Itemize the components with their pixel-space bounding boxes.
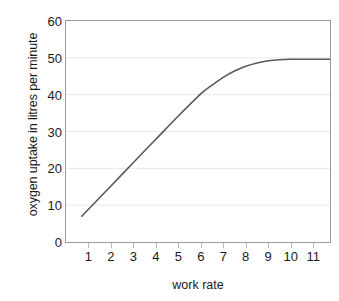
x-tick-mark: [178, 243, 179, 248]
y-tick-label: 20: [2, 161, 62, 176]
x-axis-title: work rate: [65, 278, 331, 292]
x-tick-mark: [156, 243, 157, 248]
x-tick-mark: [111, 243, 112, 248]
chart-figure: oxygen uptake in litres per minute 01020…: [0, 0, 339, 301]
x-axis-tick-labels: 1234567891011: [65, 249, 331, 269]
x-tick-mark: [223, 243, 224, 248]
data-line: [82, 59, 330, 216]
y-tick-label: 50: [2, 50, 62, 65]
y-tick-label: 30: [2, 124, 62, 139]
gridlines: [66, 58, 330, 205]
y-tick-label: 10: [2, 198, 62, 213]
x-tick-label: 11: [298, 249, 328, 264]
plot-area: [65, 20, 331, 243]
y-tick-label: 60: [2, 14, 62, 29]
x-tick-mark: [268, 243, 269, 248]
x-tick-mark: [246, 243, 247, 248]
y-axis-tick-labels: 0102030405060: [0, 20, 62, 243]
x-tick-mark: [201, 243, 202, 248]
y-tick-label: 40: [2, 87, 62, 102]
data-series-group: [82, 59, 330, 216]
x-tick-mark: [88, 243, 89, 248]
x-tick-mark: [291, 243, 292, 248]
x-tick-mark: [133, 243, 134, 248]
plot-svg: [66, 21, 330, 242]
x-tick-mark: [313, 243, 314, 248]
y-tick-label: 0: [2, 235, 62, 250]
